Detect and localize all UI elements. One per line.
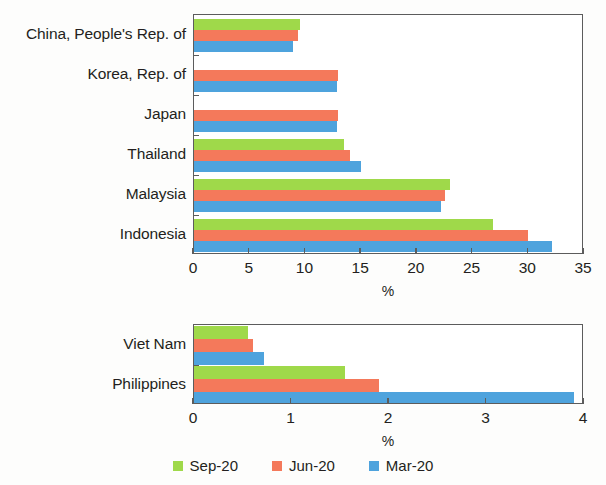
x-axis-tick-label: 1 xyxy=(286,410,295,426)
bar-jun-20-malaysia xyxy=(194,190,445,201)
x-axis-tick-label: 25 xyxy=(463,260,480,276)
lower-category-axis-labels: Viet NamPhilippines xyxy=(0,324,186,404)
x-axis-tick-label: 30 xyxy=(519,260,536,276)
bar-jun-20-japan xyxy=(194,110,338,121)
bar-jun-20-korea-rep-of xyxy=(194,70,338,81)
x-axis-tick-label: 10 xyxy=(296,260,313,276)
legend-label: Jun-20 xyxy=(289,458,335,473)
x-axis-tick-label: 20 xyxy=(407,260,424,276)
legend-item-mar[interactable]: Mar-20 xyxy=(369,458,434,473)
upper-x-axis-title: % xyxy=(382,284,394,298)
legend-swatch-icon xyxy=(369,461,379,471)
y-axis-tick xyxy=(194,95,199,96)
legend-swatch-icon xyxy=(272,461,282,471)
bar-mar-20-philippines xyxy=(194,392,574,405)
y-axis-tick xyxy=(194,215,199,216)
bar-mar-20-japan xyxy=(194,121,337,132)
x-axis-tick-label: 2 xyxy=(384,410,393,426)
category-label: Philippines xyxy=(112,376,186,392)
category-label: China, People's Rep. of xyxy=(26,26,186,42)
bar-sep-20-philippines xyxy=(194,366,345,379)
x-axis-tick-label: 15 xyxy=(352,260,369,276)
figure-root: China, People's Rep. ofKorea, Rep. ofJap… xyxy=(0,0,606,485)
legend-swatch-icon xyxy=(173,461,183,471)
legend-label: Sep-20 xyxy=(190,458,238,473)
upper-plot-area xyxy=(193,14,583,254)
bar-sep-20-thailand xyxy=(194,139,344,150)
bar-mar-20-korea-rep-of xyxy=(194,81,337,92)
bar-sep-20-indonesia xyxy=(194,219,493,230)
bar-sep-20-china-people-s-rep-of xyxy=(194,19,300,30)
y-axis-tick xyxy=(194,55,199,56)
bar-jun-20-china-people-s-rep-of xyxy=(194,30,298,41)
bar-sep-20-viet-nam xyxy=(194,326,248,339)
x-axis-tick-label: 35 xyxy=(574,260,591,276)
bar-jun-20-thailand xyxy=(194,150,350,161)
bar-jun-20-indonesia xyxy=(194,230,528,241)
category-label: Indonesia xyxy=(120,226,186,242)
bar-sep-20-malaysia xyxy=(194,179,450,190)
category-label: Japan xyxy=(144,106,186,122)
x-axis-tick-label: 0 xyxy=(189,260,198,276)
legend: Sep-20Jun-20Mar-20 xyxy=(0,458,606,473)
legend-item-sep[interactable]: Sep-20 xyxy=(173,458,238,473)
bar-jun-20-viet-nam xyxy=(194,339,253,352)
y-axis-tick xyxy=(194,135,199,136)
upper-category-axis-labels: China, People's Rep. ofKorea, Rep. ofJap… xyxy=(0,14,186,254)
lower-plot-area xyxy=(193,324,583,404)
category-label: Viet Nam xyxy=(123,336,186,352)
x-axis-tick-label: 3 xyxy=(481,410,490,426)
category-label: Thailand xyxy=(127,146,186,162)
bar-mar-20-viet-nam xyxy=(194,352,264,365)
category-label: Malaysia xyxy=(126,186,186,202)
legend-item-jun[interactable]: Jun-20 xyxy=(272,458,335,473)
y-axis-tick xyxy=(194,175,199,176)
legend-label: Mar-20 xyxy=(386,458,434,473)
x-axis-tick-label: 5 xyxy=(244,260,253,276)
lower-x-axis-title: % xyxy=(382,434,394,448)
bar-mar-20-thailand xyxy=(194,161,361,172)
x-axis-tick-label: 0 xyxy=(189,410,198,426)
bar-mar-20-malaysia xyxy=(194,201,441,212)
bar-mar-20-indonesia xyxy=(194,241,552,252)
bar-jun-20-philippines xyxy=(194,379,379,392)
category-label: Korea, Rep. of xyxy=(87,66,186,82)
bar-mar-20-china-people-s-rep-of xyxy=(194,41,293,52)
x-axis-tick-label: 4 xyxy=(579,410,588,426)
